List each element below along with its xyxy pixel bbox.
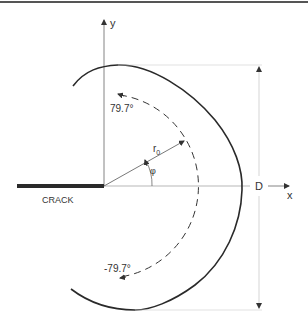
x-axis-label: x: [287, 189, 293, 201]
crack-label: CRACK: [42, 195, 74, 205]
radius-label: r0: [153, 143, 160, 156]
lower-arc-arrow: [120, 277, 126, 278]
y-axis-label: y: [110, 17, 116, 29]
upper-angle-label: 79.7°: [110, 103, 133, 114]
crack-tip-diagram: y x CRACK 79.7° -79.7° r0 φ D: [0, 0, 308, 329]
angle-label: φ: [150, 166, 156, 176]
crack: [17, 184, 104, 188]
lower-angle-label: -79.7°: [104, 263, 131, 274]
upper-arc-arrow: [118, 94, 124, 96]
radius-line: [104, 141, 184, 186]
dimension-label: D: [255, 180, 263, 192]
